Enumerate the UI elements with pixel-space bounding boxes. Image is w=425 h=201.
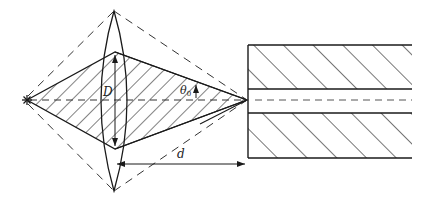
diagram-canvas: D θ0 d — [0, 0, 425, 201]
upper-slab — [248, 45, 412, 89]
optics-diagram: D θ0 d — [0, 0, 425, 201]
channel-block — [248, 45, 412, 158]
distance-label: d — [177, 147, 185, 161]
lower-slab — [248, 113, 412, 158]
point-source-icon — [22, 95, 32, 105]
aperture-label: D — [102, 85, 113, 99]
